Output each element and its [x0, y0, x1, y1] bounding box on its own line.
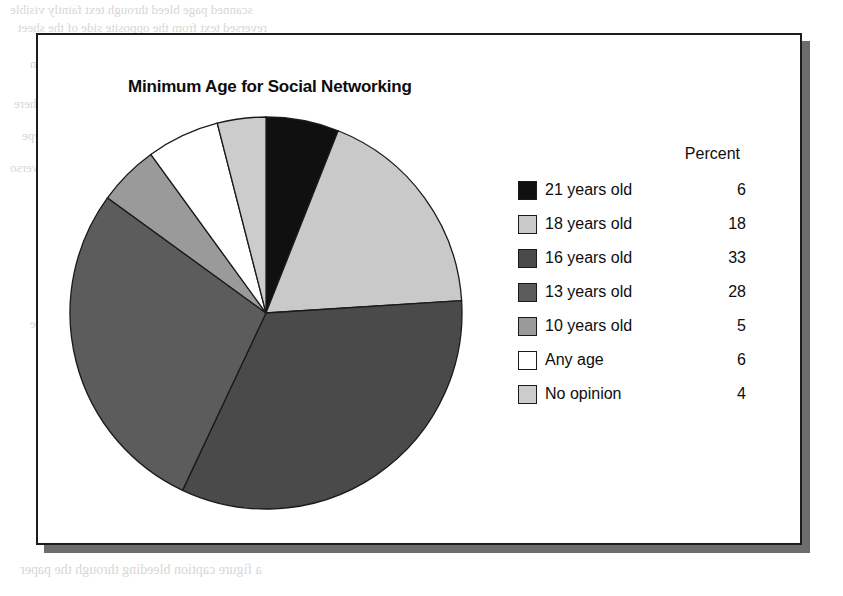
swatch-dark-gray-icon — [518, 249, 537, 268]
legend-item-label: 18 years old — [545, 215, 688, 233]
legend-item-label: 10 years old — [545, 317, 688, 335]
figure-frame: Minimum Age for Social Networking Percen… — [36, 33, 802, 545]
legend-item: 13 years old28 — [518, 275, 788, 309]
legend-item-label: 16 years old — [545, 249, 688, 267]
legend-item: 21 years old6 — [518, 173, 788, 207]
swatch-white-icon — [518, 351, 537, 370]
legend-item-value: 4 — [688, 385, 788, 403]
legend-item: No opinion4 — [518, 377, 788, 411]
legend-item-value: 33 — [688, 249, 788, 267]
chart-legend: Percent 21 years old618 years old1816 ye… — [518, 145, 788, 411]
legend-item: 16 years old33 — [518, 241, 788, 275]
legend-item-label: No opinion — [545, 385, 688, 403]
legend-item-value: 18 — [688, 215, 788, 233]
swatch-light-gray-icon — [518, 215, 537, 234]
legend-item-value: 5 — [688, 317, 788, 335]
legend-item: 10 years old5 — [518, 309, 788, 343]
bleed-through-text: scanned page bleed through text faintly … — [10, 2, 253, 18]
legend-item-value: 28 — [688, 283, 788, 301]
legend-header: Percent — [518, 145, 788, 173]
chart-title: Minimum Age for Social Networking — [128, 77, 412, 97]
pie-chart-svg — [66, 113, 466, 513]
swatch-black-icon — [518, 181, 537, 200]
legend-item-value: 6 — [688, 181, 788, 199]
bleed-through-text: a figure caption bleeding through the pa… — [20, 562, 262, 578]
legend-item: 18 years old18 — [518, 207, 788, 241]
swatch-medium-gray-icon — [518, 317, 537, 336]
legend-rows: 21 years old618 years old1816 years old3… — [518, 173, 788, 411]
swatch-pale-gray-icon — [518, 385, 537, 404]
pie-chart — [66, 113, 466, 513]
legend-item-label: Any age — [545, 351, 688, 369]
legend-item-label: 21 years old — [545, 181, 688, 199]
legend-item: Any age6 — [518, 343, 788, 377]
legend-value-header: Percent — [685, 145, 740, 163]
swatch-medium-dark-gray-icon — [518, 283, 537, 302]
legend-item-label: 13 years old — [545, 283, 688, 301]
legend-item-value: 6 — [688, 351, 788, 369]
